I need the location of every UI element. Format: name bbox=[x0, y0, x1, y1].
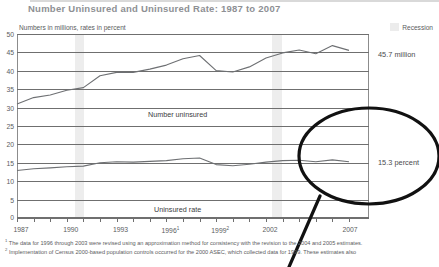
series-label-number-uninsured: Number uninsured bbox=[148, 110, 207, 119]
x-tick-text: 1996 bbox=[162, 227, 177, 234]
y-tick-label: 45 bbox=[6, 49, 14, 56]
x-tick-text: 1990 bbox=[63, 226, 78, 233]
footnote-1: 1 The data for 1996 through 2003 were re… bbox=[5, 238, 437, 247]
x-tick-text: 1999 bbox=[211, 227, 226, 234]
footnote-marker: 1 bbox=[5, 238, 7, 243]
x-tick-text: 2002 bbox=[262, 226, 277, 233]
x-tick bbox=[133, 218, 134, 222]
x-tick bbox=[183, 218, 184, 222]
x-tick bbox=[150, 218, 151, 222]
x-tick bbox=[17, 218, 18, 222]
x-tick-label-1990: 1990 bbox=[63, 226, 78, 233]
y-tick-label: 20 bbox=[6, 141, 14, 148]
y-tick-label: 50 bbox=[6, 31, 14, 38]
x-tick bbox=[166, 218, 167, 222]
recession-swatch-icon bbox=[390, 23, 399, 31]
axis-units-note: Numbers in millions, rates in percent bbox=[19, 24, 126, 31]
x-tick-label-2002: 2002 bbox=[262, 226, 277, 233]
x-tick bbox=[332, 218, 333, 222]
x-tick bbox=[233, 218, 234, 222]
x-axis: 1987 1990 1993 19961 19992 2002 2007 bbox=[17, 218, 369, 219]
series-lines bbox=[17, 34, 369, 218]
x-tick-label-1999: 19992 bbox=[211, 226, 229, 234]
x-tick bbox=[50, 218, 51, 222]
series-label-uninsured-rate: Uninsured rate bbox=[154, 205, 201, 214]
plot-area: 50 45 40 35 30 25 20 15 10 5 0 bbox=[17, 34, 369, 218]
x-tick bbox=[83, 218, 84, 222]
x-tick bbox=[249, 218, 250, 222]
x-tick bbox=[316, 218, 317, 222]
x-tick bbox=[299, 218, 300, 222]
y-tick-label: 40 bbox=[6, 67, 14, 74]
x-tick bbox=[283, 218, 284, 222]
page-title: Number Uninsured and Uninsured Rate: 198… bbox=[28, 3, 280, 14]
x-tick-label-2007: 2007 bbox=[342, 226, 357, 233]
y-tick-label: 0 bbox=[10, 214, 14, 221]
x-tick-label-1996: 19961 bbox=[162, 226, 180, 234]
x-tick bbox=[349, 218, 350, 222]
recession-legend-label: Recession bbox=[402, 24, 433, 31]
series-line-number-uninsured bbox=[17, 46, 349, 104]
x-tick bbox=[216, 218, 217, 222]
y-tick-label: 10 bbox=[6, 178, 14, 185]
x-tick-text: 2007 bbox=[342, 226, 357, 233]
series-line-uninsured-rate bbox=[17, 158, 349, 171]
footnote-2: 2 Implementation of Census 2000-based po… bbox=[5, 247, 437, 256]
callout-number-uninsured-value: 45.7 million bbox=[378, 50, 415, 59]
x-tick bbox=[266, 218, 267, 222]
footnote-text: The data for 1996 through 2003 were revi… bbox=[9, 240, 363, 246]
y-tick-label: 25 bbox=[6, 123, 14, 130]
x-tick bbox=[67, 218, 68, 222]
x-tick bbox=[200, 218, 201, 222]
y-tick-label: 15 bbox=[6, 159, 14, 166]
x-tick-text: 1993 bbox=[113, 226, 128, 233]
chart-page: Number Uninsured and Uninsured Rate: 198… bbox=[0, 0, 439, 267]
y-tick-label: 5 bbox=[10, 196, 14, 203]
x-tick-label-1987: 1987 bbox=[13, 226, 28, 233]
x-tick bbox=[117, 218, 118, 222]
x-tick bbox=[100, 218, 101, 222]
x-tick-label-1993: 1993 bbox=[113, 226, 128, 233]
y-tick-label: 30 bbox=[6, 104, 14, 111]
callout-uninsured-rate-value: 15.3 percent bbox=[378, 158, 419, 167]
footnotes: 1 The data for 1996 through 2003 were re… bbox=[5, 238, 437, 256]
x-tick bbox=[34, 218, 35, 222]
recession-legend: Recession bbox=[390, 23, 433, 31]
footnote-marker: 2 bbox=[5, 247, 7, 252]
x-tick-text: 1987 bbox=[13, 226, 28, 233]
x-tick-footnote-marker: 2 bbox=[226, 226, 229, 231]
x-tick-footnote-marker: 1 bbox=[177, 226, 180, 231]
footnote-text: Implementation of Census 2000-based popu… bbox=[9, 249, 356, 255]
y-tick-label: 35 bbox=[6, 86, 14, 93]
